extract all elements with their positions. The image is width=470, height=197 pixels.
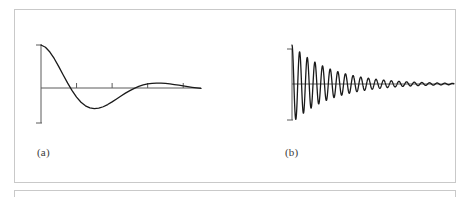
figure-page: (a) (b) [0, 0, 470, 197]
panel-label-a: (a) [37, 146, 50, 158]
damped-oscillation-chart-b [236, 10, 457, 184]
next-figure-box [14, 190, 456, 197]
panel-label-b: (b) [285, 146, 298, 158]
plot-panel-a: (a) [15, 10, 236, 184]
plot-panel-b: (b) [236, 10, 457, 184]
figure-panel-container: (a) (b) [14, 9, 456, 183]
